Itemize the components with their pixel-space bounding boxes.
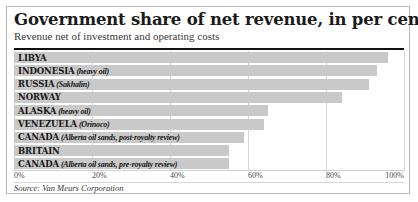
chart-plot-area: LIBYAINDONESIA (heavy oil)RUSSIA (Sakhal… bbox=[14, 51, 404, 171]
chart-subtitle: Revenue net of investment and operating … bbox=[14, 30, 402, 43]
bar-row[interactable]: VENEZUELA (Orinoco) bbox=[14, 119, 404, 130]
x-tick-label: 20% bbox=[92, 171, 107, 180]
bar-label: RUSSIA (Sakhalin) bbox=[18, 79, 89, 89]
gridline-100 bbox=[404, 51, 405, 171]
bar-row[interactable]: ALASKA (heavy oil) bbox=[14, 105, 404, 116]
source-note: Source: Van Meurs Corporation bbox=[14, 183, 123, 193]
bar-row[interactable]: LIBYA bbox=[14, 52, 404, 63]
bar-label: CANADA (Alberta oil sands, post-royalty … bbox=[18, 132, 180, 142]
bar-row[interactable]: RUSSIA (Sakhalin) bbox=[14, 79, 404, 90]
x-tick-label: 60% bbox=[248, 171, 263, 180]
bar-label: INDONESIA (heavy oil) bbox=[18, 66, 109, 76]
x-tick-label: 0% bbox=[14, 171, 25, 180]
bar bbox=[14, 52, 388, 63]
bar-label: NORWAY bbox=[18, 92, 61, 102]
bar-label: ALASKA (heavy oil) bbox=[18, 106, 91, 116]
title-divider bbox=[14, 48, 404, 50]
chart-header: Government share of net revenue, in per … bbox=[7, 7, 409, 43]
bar-row[interactable]: CANADA (Alberta oil sands, pre-royalty r… bbox=[14, 158, 404, 169]
bar bbox=[14, 92, 342, 103]
bar-row[interactable]: NORWAY bbox=[14, 92, 404, 103]
bar-label: BRITAIN bbox=[18, 146, 60, 156]
x-tick-label: 80% bbox=[326, 171, 341, 180]
x-tick-label: 40% bbox=[170, 171, 185, 180]
bar-rows: LIBYAINDONESIA (heavy oil)RUSSIA (Sakhal… bbox=[14, 51, 404, 171]
bar-row[interactable]: INDONESIA (heavy oil) bbox=[14, 65, 404, 76]
bar-row[interactable]: CANADA (Alberta oil sands, post-royalty … bbox=[14, 132, 404, 143]
chart-card: Government share of net revenue, in per … bbox=[6, 6, 410, 194]
page-title: Government share of net revenue, in per … bbox=[14, 10, 402, 29]
x-tick-label: 100% bbox=[385, 171, 404, 180]
bar-label: CANADA (Alberta oil sands, pre-royalty r… bbox=[18, 159, 177, 169]
bar-row[interactable]: BRITAIN bbox=[14, 145, 404, 156]
bar-label: LIBYA bbox=[18, 53, 47, 63]
bar-label: VENEZUELA (Orinoco) bbox=[18, 119, 110, 129]
